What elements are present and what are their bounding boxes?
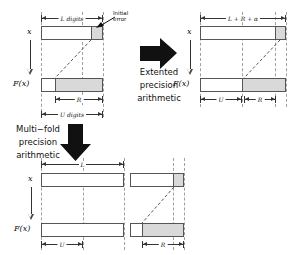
dimension-label-R: R — [75, 97, 84, 103]
dimension-label-R: R — [256, 97, 265, 103]
error-propagation-line — [126, 185, 188, 227]
dimension-label-U: U — [57, 242, 66, 248]
row-label-Fx: F(x) — [173, 80, 189, 88]
multifold-flow-line1: Multi−fold — [16, 124, 60, 134]
dimension-label-L-digits: L digits — [59, 16, 86, 22]
dim-line: R — [245, 99, 275, 100]
row-label-Fx: F(x) — [13, 80, 29, 88]
dimension-label-U-digits: U digits — [58, 112, 86, 118]
dim-tick-end — [275, 96, 276, 103]
flow-axis-line — [31, 187, 32, 215]
dimension-bottom-U-digits: U digits — [41, 110, 103, 119]
dimension-label-R: R — [159, 242, 168, 248]
flow-axis-arrowhead — [28, 214, 34, 220]
dim-line: L + R + α — [201, 18, 285, 19]
dim-tick-end — [82, 241, 83, 248]
flow-axis-line — [30, 40, 31, 70]
dimension-bottom-U: U — [41, 240, 83, 249]
guide-line-split — [124, 158, 125, 250]
dim-tick-end — [102, 96, 103, 103]
extended-flow-line1: Extented — [140, 67, 178, 77]
dim-tick-end — [183, 241, 184, 248]
dimension-bottom-R: R — [142, 240, 184, 249]
row-label-x: x — [187, 28, 192, 36]
multifold-flow-line2: precision — [19, 137, 57, 147]
dimension-label-U: U — [216, 97, 225, 103]
dim-line: R — [56, 99, 102, 100]
extended-flow-line3: arithmetic — [137, 93, 181, 103]
row-label-x: x — [27, 28, 32, 36]
dim-line: L digits — [42, 18, 102, 19]
flow-axis-arrowhead — [187, 69, 193, 75]
dim-line: U digits — [42, 114, 102, 115]
dim-line: U — [42, 244, 82, 245]
input-bar-x-high — [41, 173, 124, 187]
extended-precision-panel: L + R + α x F(x) U R — [186, 0, 296, 115]
multifold-precision-panel: L x F(x) U R — [26, 155, 226, 255]
dim-tick-end — [123, 161, 124, 168]
dimension-label-L: L — [79, 162, 87, 168]
dimension-top-LRalpha: L + R + α — [200, 14, 286, 23]
flow-axis-arrowhead — [27, 69, 33, 75]
dimension-inner-R: R — [55, 95, 103, 104]
initial-error-pointer — [94, 14, 116, 30]
figure-canvas: L digits x Initial error F(x) — [0, 0, 296, 255]
dimension-bottom-U: U — [200, 95, 242, 104]
output-bar-Fx-high — [41, 223, 124, 237]
dimension-bottom-R: R — [244, 95, 276, 104]
flow-axis-line — [190, 40, 191, 70]
dim-line: R — [143, 244, 183, 245]
dimension-label-LRalpha: L + R + α — [226, 16, 260, 22]
row-label-x: x — [28, 175, 33, 183]
error-propagation-line — [41, 38, 111, 82]
error-propagation-line — [200, 38, 292, 82]
row-label-Fx: F(x) — [14, 225, 30, 233]
dim-line: U — [201, 99, 241, 100]
dim-line: L — [42, 164, 123, 165]
dim-tick-end — [102, 111, 103, 118]
dimension-top-L: L — [41, 160, 124, 169]
dim-tick-end — [285, 15, 286, 22]
dim-tick-end — [241, 96, 242, 103]
